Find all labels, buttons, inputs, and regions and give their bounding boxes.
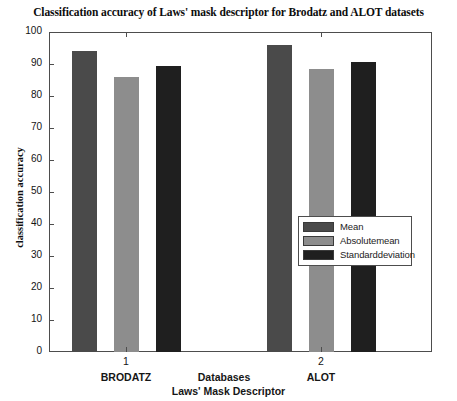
x-tick-mark bbox=[321, 347, 322, 352]
legend-label-absolutemean: Absolutemean bbox=[340, 235, 400, 246]
y-tick-label: 40 bbox=[31, 217, 42, 229]
legend-label-standarddeviation: Standarddeviation bbox=[340, 249, 415, 260]
y-tick-mark bbox=[49, 192, 54, 193]
y-tick-label: 0 bbox=[36, 345, 42, 357]
x-category-label: ALOT bbox=[271, 371, 371, 383]
x-tick-mark-top bbox=[321, 32, 322, 37]
y-tick-label: 10 bbox=[31, 313, 42, 325]
y-tick-label: 60 bbox=[31, 153, 42, 165]
legend-swatch-absolutemean bbox=[303, 236, 334, 246]
y-axis-label: classification accuracy bbox=[14, 83, 25, 313]
y-tick-label: 90 bbox=[31, 57, 42, 69]
y-tick-label: 30 bbox=[31, 249, 42, 261]
bar bbox=[309, 69, 334, 352]
bar bbox=[114, 77, 139, 352]
x-category-label: BRODATZ bbox=[76, 371, 176, 383]
y-tick-label: 80 bbox=[31, 89, 42, 101]
y-tick-label: 20 bbox=[31, 281, 42, 293]
y-tick-label: 70 bbox=[31, 121, 42, 133]
figure-canvas: Classification accuracy of Laws' mask de… bbox=[0, 0, 457, 401]
bar bbox=[351, 62, 376, 352]
y-tick-mark bbox=[49, 320, 54, 321]
x-tick-label: 1 bbox=[106, 355, 146, 367]
y-tick-mark bbox=[49, 128, 54, 129]
bar bbox=[267, 45, 292, 352]
legend-item: Absolutemean bbox=[303, 234, 407, 247]
legend-item: Standarddeviation bbox=[303, 248, 407, 261]
y-tick-mark bbox=[49, 64, 54, 65]
legend-label-mean: Mean bbox=[340, 221, 363, 232]
y-tick-label: 100 bbox=[25, 25, 42, 37]
x-tick-mark bbox=[126, 347, 127, 352]
x-axis-label: Laws' Mask Descriptor bbox=[0, 385, 457, 397]
bar bbox=[72, 51, 97, 352]
x-tick-label: 2 bbox=[301, 355, 341, 367]
legend[interactable]: Mean Absolutemean Standarddeviation bbox=[298, 216, 412, 266]
x-axis-note: Databases bbox=[174, 371, 274, 383]
y-tick-mark bbox=[49, 96, 54, 97]
legend-swatch-mean bbox=[303, 222, 334, 232]
y-tick-mark bbox=[49, 224, 54, 225]
y-tick-mark bbox=[49, 288, 54, 289]
y-tick-label: 50 bbox=[31, 185, 42, 197]
legend-item: Mean bbox=[303, 220, 407, 233]
y-tick-mark bbox=[49, 256, 54, 257]
y-tick-mark bbox=[49, 160, 54, 161]
legend-swatch-standarddeviation bbox=[303, 250, 334, 260]
bar bbox=[156, 66, 181, 352]
y-axis: 0102030405060708090100 bbox=[0, 0, 457, 401]
x-tick-mark-top bbox=[126, 32, 127, 37]
